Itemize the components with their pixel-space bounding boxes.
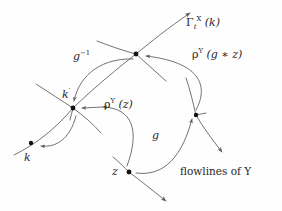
arrow-k-prime-to-k: [41, 116, 76, 146]
k-prime-mark: ′: [69, 87, 71, 95]
flowline-through-g-star-z-upper: [186, 78, 196, 115]
flowline-through-z-lower: [129, 172, 166, 201]
label-k: k: [24, 152, 31, 163]
label-z: z: [112, 166, 118, 177]
gamma-subscript: t: [194, 23, 197, 31]
g-inverse-base: g: [73, 50, 80, 63]
point-k: [29, 141, 33, 145]
label-g: g: [152, 130, 159, 141]
label-rho-g-star-z: ρY (g ∗ z): [192, 48, 242, 60]
flowline-top-node-to-arrow: [136, 13, 190, 54]
point-top-node: [134, 52, 139, 57]
gamma-argument: (k): [205, 16, 220, 29]
figure-canvas: [0, 0, 282, 211]
k-prime-base: k: [62, 88, 69, 101]
rho-z-argument: (z): [118, 98, 132, 111]
label-g-inverse: g−1: [73, 50, 90, 62]
figure-root: ΓtX (k) g−1 ρY (g ∗ z) ρY (z) k′ k z g f…: [0, 0, 282, 211]
gamma-symbol: Γ: [186, 16, 194, 29]
label-k-prime: k′: [62, 88, 70, 100]
label-flowlines-caption: flowlines of Y: [180, 166, 251, 177]
flowlines-text: flowlines of Y: [180, 165, 251, 177]
flowline-through-k-prime-lower: [73, 108, 101, 133]
point-k-prime: [71, 106, 76, 111]
point-g-star-z: [194, 113, 198, 117]
rho-argument: (g ∗ z): [206, 48, 242, 61]
label-rho-z: ρY (z): [104, 98, 133, 110]
arrow-rho-z: [103, 107, 133, 166]
flowline-k-to-top-node: [14, 108, 73, 155]
arrow-rho-z-leader: [82, 107, 103, 108]
g-inverse-exponent: −1: [80, 49, 90, 57]
flowline-through-g-star-z-lower: [196, 115, 222, 152]
label-gamma-flow: ΓtX (k): [186, 16, 220, 31]
point-z: [127, 170, 132, 175]
flowline-through-top-node-upper: [97, 41, 136, 54]
